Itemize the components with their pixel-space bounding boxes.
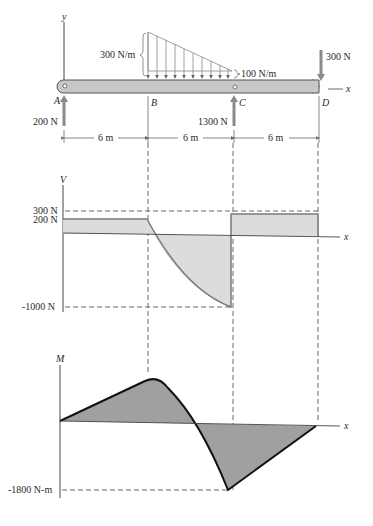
moment-tick-neg1800: -1800 N-m — [8, 484, 52, 495]
moment-axis-label: M — [55, 353, 65, 364]
shear-axis-label: V — [60, 174, 68, 185]
point-d-label: D — [321, 97, 330, 108]
point-a-label: A — [53, 95, 61, 106]
moment-diagram: M x -1800 N-m — [8, 353, 349, 498]
shear-tick-neg1000: -1000 N — [22, 301, 55, 312]
beam — [57, 80, 319, 93]
dist-load-left-label: 300 N/m — [100, 49, 136, 60]
point-c-label: C — [239, 97, 246, 108]
pin-a — [63, 84, 67, 88]
moment-x-label: x — [343, 420, 349, 431]
beam-diagram: y 300 N/m 100 N/m — [0, 0, 373, 526]
y-axis-label: y — [61, 11, 67, 22]
beam-section: y 300 N/m 100 N/m — [33, 11, 351, 143]
shear-tick-200: 200 N — [33, 214, 58, 225]
shear-diagram: V x 300 N 200 N -1000 N — [22, 174, 349, 312]
reaction-c-label: 1300 N — [198, 116, 228, 127]
beam-x-label: x — [345, 83, 351, 94]
dist-load-right-label: 100 N/m — [241, 68, 277, 79]
point-b-label: B — [151, 97, 157, 108]
dim-ab: 6 m — [98, 132, 114, 143]
dim-bc: 6 m — [183, 132, 199, 143]
moment-area — [60, 379, 316, 490]
shear-x-label: x — [343, 231, 349, 242]
load-d-label: 300 N — [326, 51, 351, 62]
dim-cd: 6 m — [268, 132, 284, 143]
reaction-a-label: 200 N — [33, 116, 58, 127]
distributed-load — [140, 32, 240, 78]
pin-c — [233, 85, 237, 89]
